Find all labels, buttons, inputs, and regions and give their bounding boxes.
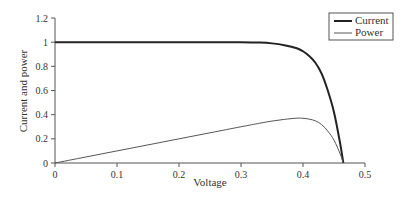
x-tick-label: 0.2 — [173, 169, 186, 180]
x-tick-label: 0.3 — [235, 169, 248, 180]
x-tick-label: 0.5 — [359, 169, 372, 180]
y-tick-label: 1 — [43, 37, 48, 48]
legend-label-current: Current — [355, 14, 389, 26]
y-tick-label: 0.6 — [36, 85, 49, 96]
series-layer — [55, 42, 343, 163]
legend-label-power: Power — [355, 26, 383, 38]
y-tick-label: 0 — [43, 158, 48, 169]
y-tick-label: 0.2 — [36, 133, 49, 144]
x-axis-title: Voltage — [193, 176, 227, 188]
y-tick-label: 0.8 — [36, 61, 49, 72]
series-line-power — [55, 118, 343, 163]
legend: Current Power — [329, 13, 393, 40]
x-tick-label: 0 — [53, 169, 58, 180]
axes: 00.10.20.30.40.500.20.40.60.811.2 — [36, 13, 372, 181]
y-tick-label: 0.4 — [36, 109, 49, 120]
x-tick-label: 0.4 — [297, 169, 310, 180]
series-line-current — [55, 42, 343, 163]
x-tick-label: 0.1 — [111, 169, 124, 180]
y-tick-label: 1.2 — [36, 13, 49, 24]
y-axis-title: Current and power — [17, 49, 29, 132]
chart: 00.10.20.30.40.500.20.40.60.811.2 Curren… — [0, 0, 413, 201]
